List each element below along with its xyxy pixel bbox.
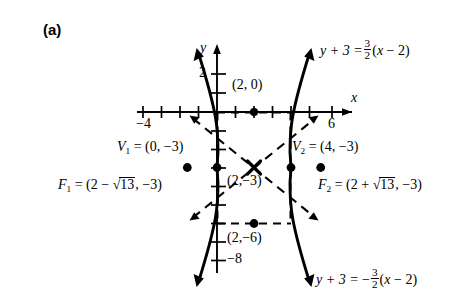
- focus-1-symbol: F: [58, 177, 67, 192]
- asymptote-negative-tail: − 2): [394, 272, 417, 287]
- x-tick-label-6: 6: [328, 117, 335, 131]
- vertex-2-subscript: 2: [301, 146, 306, 156]
- focus-2-radicand: 13: [379, 177, 395, 192]
- point-2-minus6-label: (2,−6): [227, 231, 262, 245]
- vertex-1-subscript: 1: [126, 146, 131, 156]
- asymptote-negative-slope-fraction: 32: [371, 267, 379, 291]
- center-label: (2,−3): [227, 174, 262, 188]
- vertex-2-symbol: V: [292, 139, 301, 154]
- focus-2-subscript: 2: [327, 184, 332, 194]
- focus-1-prefix: = (2 −: [75, 177, 113, 192]
- asymptote-positive-equation: y + 3 =32(x − 2): [320, 38, 410, 62]
- x-axis-label: x: [351, 91, 357, 105]
- panel-label: (a): [43, 22, 61, 37]
- focus-1-subscript: 1: [67, 184, 72, 194]
- y-axis-arrowhead: [213, 44, 221, 54]
- asymptote-positive-denominator: 2: [364, 49, 372, 61]
- vertex-2-label: V2 = (4, −3): [292, 140, 358, 154]
- focus-1-radical: √13: [113, 177, 136, 192]
- focus-2-radical: √13: [373, 177, 396, 192]
- focus-1-suffix: , −3): [135, 177, 162, 192]
- vertex-2-equation: = (4, −3): [309, 139, 359, 154]
- vertex-1-symbol: V: [117, 139, 126, 154]
- asymptote-negative-sign: −: [362, 272, 370, 287]
- asymptote-negative-numerator: 3: [371, 267, 379, 278]
- focus-2-prefix: = (2 +: [335, 177, 373, 192]
- asymptote-negative-equation: y + 3 = −32(x − 2): [316, 267, 417, 291]
- point-2-minus6-dot: [250, 219, 259, 228]
- focus-1-label: F1 = (2 − √13, −3): [58, 177, 162, 192]
- asymptote-positive-tail: − 2): [387, 43, 410, 58]
- focus-2-symbol: F: [318, 177, 327, 192]
- focus-2-dot: [316, 163, 325, 172]
- asymptote-negative-denominator: 2: [371, 278, 379, 290]
- focus-1-radicand: 13: [119, 177, 135, 192]
- y-tick-label-minus8: −8: [227, 252, 242, 266]
- x-tick-label-minus4: −4: [136, 117, 151, 131]
- y-tick-label-2: 2: [199, 66, 206, 80]
- vertex-1-equation: = (0, −3): [134, 139, 184, 154]
- focus-2-suffix: , −3): [395, 177, 422, 192]
- asymptote-positive-variable: x: [377, 43, 383, 58]
- asymptote-positive-slope-fraction: 32: [364, 38, 372, 62]
- asymptote-negative-lhs: y + 3 =: [316, 272, 359, 287]
- x-axis-arrowhead: [342, 108, 352, 116]
- focus-1-dot: [183, 163, 192, 172]
- focus-2-label: F2 = (2 + √13, −3): [318, 177, 422, 192]
- point-2-0-label: (2, 0): [232, 78, 262, 92]
- asymptote-positive-lhs: y + 3 =: [320, 43, 363, 58]
- vertex-2-dot: [287, 163, 296, 172]
- vertex-1-label: V1 = (0, −3): [117, 140, 183, 154]
- point-2-0-dot: [250, 108, 258, 116]
- y-axis-label: y: [200, 41, 206, 55]
- vertex-1-dot: [213, 163, 222, 172]
- asymptote-positive-numerator: 3: [364, 38, 372, 49]
- asymptote-negative-variable: x: [384, 272, 390, 287]
